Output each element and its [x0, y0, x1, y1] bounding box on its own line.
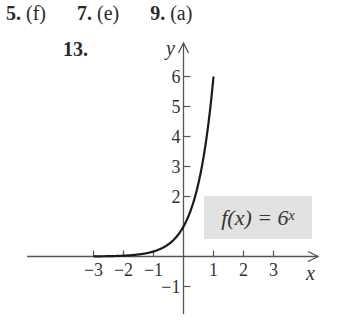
- x-tick-label: 3: [269, 260, 278, 280]
- y-tick-label: 2: [172, 187, 181, 207]
- y-tick-label: 4: [172, 127, 181, 147]
- y-axis-label: y: [164, 37, 175, 60]
- graph: −3−2−1123−123456 x y: [0, 0, 337, 320]
- function-curve: [94, 77, 214, 257]
- function-label: f(x) = 6x: [204, 196, 312, 239]
- x-tick-label: −2: [114, 260, 133, 280]
- x-tick-label: −3: [84, 260, 103, 280]
- x-axis-label: x: [305, 262, 315, 284]
- x-tick-label: 1: [209, 260, 218, 280]
- x-tick-label: −1: [144, 260, 163, 280]
- y-tick-label: 6: [172, 67, 181, 87]
- y-tick-label: 3: [172, 157, 181, 177]
- y-tick-label: 5: [172, 97, 181, 117]
- x-tick-label: 2: [239, 260, 248, 280]
- y-tick-label: −1: [161, 277, 180, 297]
- axes: −3−2−1123−123456: [27, 43, 318, 314]
